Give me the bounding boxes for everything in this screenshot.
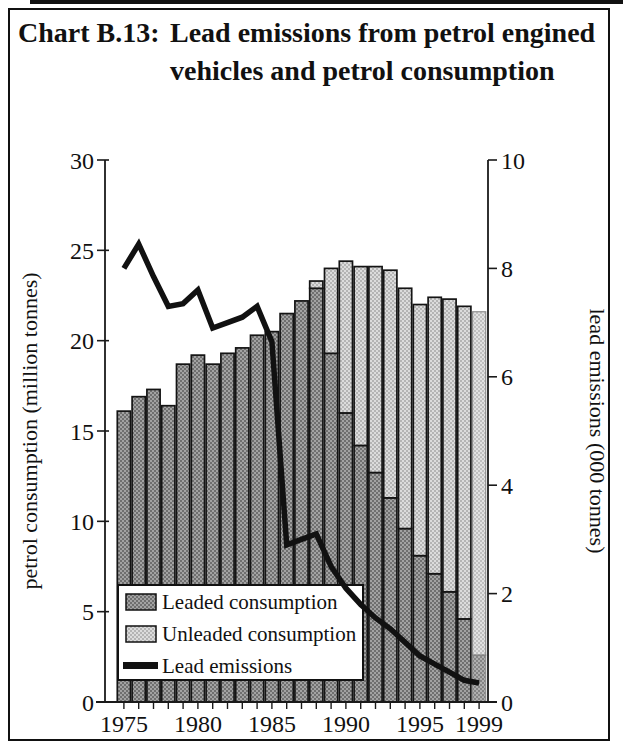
bar-leaded-1997 xyxy=(443,592,456,702)
x-tick-label-1995: 1995 xyxy=(396,711,444,737)
bar-unleaded-1992 xyxy=(369,267,382,473)
bar-unleaded-1997 xyxy=(443,299,456,592)
legend-box: Leaded consumption Unleaded consumption … xyxy=(118,585,363,680)
bar-leaded-1999 xyxy=(473,655,486,702)
bar-unleaded-1990 xyxy=(339,261,352,413)
bar-leaded-1992 xyxy=(369,473,382,702)
bar-leaded-1994 xyxy=(399,529,412,702)
x-tick-label-1990: 1990 xyxy=(322,711,370,737)
bar-unleaded-1998 xyxy=(458,306,471,619)
legend-swatch-unleaded xyxy=(126,626,156,642)
bar-leaded-1993 xyxy=(384,498,397,702)
left-tick-label-15: 15 xyxy=(70,419,94,445)
bar-leaded-1998 xyxy=(458,619,471,702)
left-tick-label-25: 25 xyxy=(70,238,94,264)
legend-label-unleaded: Unleaded consumption xyxy=(162,622,357,646)
bar-unleaded-1995 xyxy=(413,305,426,556)
bar-unleaded-1993 xyxy=(384,270,397,498)
bar-unleaded-1999 xyxy=(473,312,486,655)
legend-swatch-line xyxy=(123,662,158,669)
legend-label-line: Lead emissions xyxy=(162,654,292,678)
right-tick-label-6: 6 xyxy=(501,364,513,390)
legend-swatch-leaded xyxy=(126,594,156,610)
right-tick-label-2: 2 xyxy=(501,581,513,607)
x-tick-label-1980: 1980 xyxy=(174,711,222,737)
bar-unleaded-1988 xyxy=(310,281,323,288)
left-tick-label-0: 0 xyxy=(82,690,94,716)
right-tick-label-10: 10 xyxy=(501,148,525,174)
bar-unleaded-1989 xyxy=(325,268,338,353)
chart-plot: 3025201510501086420197519801985199019951… xyxy=(0,0,623,754)
bar-leaded-1996 xyxy=(428,574,441,702)
legend-label-leaded: Leaded consumption xyxy=(162,590,338,614)
left-tick-label-5: 5 xyxy=(82,599,94,625)
left-tick-label-30: 30 xyxy=(70,148,94,174)
bar-unleaded-1991 xyxy=(354,267,367,446)
figure-page: { "figure": { "title_label": "Chart B.13… xyxy=(0,0,623,754)
right-tick-label-4: 4 xyxy=(501,473,513,499)
bar-unleaded-1994 xyxy=(399,288,412,528)
x-tick-label-1985: 1985 xyxy=(248,711,296,737)
left-tick-label-20: 20 xyxy=(70,328,94,354)
left-tick-label-10: 10 xyxy=(70,509,94,535)
right-tick-label-8: 8 xyxy=(501,256,513,282)
x-tick-label-1999: 1999 xyxy=(455,711,503,737)
x-tick-label-1975: 1975 xyxy=(100,711,148,737)
bar-leaded-1995 xyxy=(413,556,426,702)
bar-unleaded-1996 xyxy=(428,297,441,573)
